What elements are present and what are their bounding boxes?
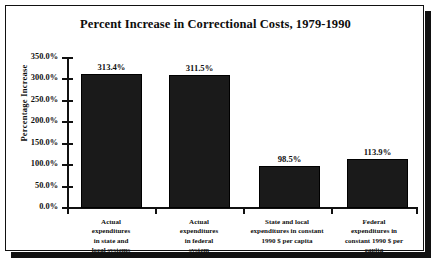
- figure-drop-shadow-right: [425, 11, 431, 257]
- bar-2[interactable]: [259, 166, 320, 208]
- category-label-line: local systems: [67, 246, 155, 255]
- category-label-line: in state and: [67, 237, 155, 246]
- y-axis-tick-label: 100.0%: [0, 159, 58, 168]
- bar-3[interactable]: [347, 159, 408, 208]
- x-axis-tick: [155, 207, 157, 214]
- y-axis-tick: [62, 143, 73, 145]
- x-axis-tick: [331, 207, 333, 214]
- category-label-line: expenditures: [67, 227, 155, 236]
- y-axis-tick-label: 0.0%: [0, 202, 58, 211]
- plot-area: 350.0% 300.0% 250.0% 200.0% 150.0% 100.0…: [6, 6, 425, 252]
- category-label-line: Actual: [155, 218, 243, 227]
- category-label-line: system: [155, 246, 243, 255]
- x-axis-tick: [243, 207, 245, 214]
- y-axis-tick-label: 50.0%: [0, 181, 58, 190]
- x-axis-tick: [416, 207, 418, 214]
- x-axis-tick: [67, 207, 69, 214]
- bar-value-label-2: 98.5%: [259, 154, 320, 164]
- y-axis-tick-label: 250.0%: [0, 95, 58, 104]
- category-label-line: expenditures in: [328, 227, 420, 236]
- y-axis-tick-label: 150.0%: [0, 138, 58, 147]
- y-axis-tick: [62, 57, 73, 59]
- category-label-2: State and localexpenditures in constant1…: [239, 218, 335, 246]
- bar-value-label-1: 311.5%: [169, 63, 230, 73]
- category-label-line: constant 1990 $ per: [328, 237, 420, 246]
- category-label-line: Federal: [328, 218, 420, 227]
- y-axis-tick-label: 200.0%: [0, 116, 58, 125]
- y-axis-tick: [62, 164, 73, 166]
- chart-figure-frame: Percent Increase in Correctional Costs, …: [5, 5, 424, 251]
- bar-value-label-3: 113.9%: [347, 147, 408, 157]
- category-label-line: capita: [328, 246, 420, 255]
- bar-1[interactable]: [169, 75, 230, 209]
- category-label-line: 1990 $ per capita: [239, 237, 335, 246]
- category-label-line: in federal: [155, 237, 243, 246]
- y-axis-tick: [62, 78, 73, 80]
- category-label-line: expenditures: [155, 227, 243, 236]
- category-label-line: Actual: [67, 218, 155, 227]
- bar-value-label-0: 313.4%: [81, 62, 142, 72]
- category-label-line: State and local: [239, 218, 335, 227]
- y-axis-tick-label: 300.0%: [0, 73, 58, 82]
- y-axis-tick: [62, 121, 73, 123]
- y-axis-tick: [62, 186, 73, 188]
- bar-0[interactable]: [81, 74, 142, 208]
- y-axis-tick-label: 350.0%: [0, 52, 58, 61]
- category-label-line: expenditures in constant: [239, 227, 335, 236]
- category-label-3: Federalexpenditures inconstant 1990 $ pe…: [328, 218, 420, 255]
- category-label-0: Actualexpendituresin state andlocal syst…: [67, 218, 155, 255]
- category-label-1: Actualexpendituresin federalsystem: [155, 218, 243, 255]
- y-axis-tick: [62, 100, 73, 102]
